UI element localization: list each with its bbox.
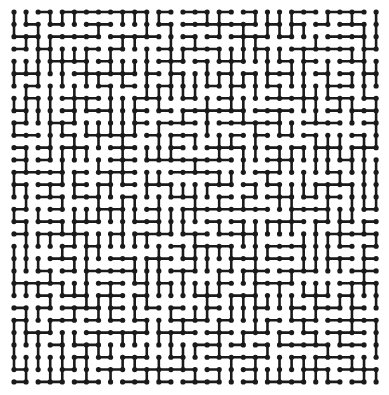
maze-node — [36, 34, 41, 39]
maze-node — [229, 219, 234, 224]
maze-node — [265, 34, 270, 39]
maze-node — [253, 120, 258, 125]
maze-node — [144, 367, 149, 372]
maze-node — [120, 108, 125, 113]
maze-node — [84, 71, 89, 76]
maze-node — [168, 170, 173, 175]
maze-node — [253, 342, 258, 347]
maze-node — [84, 182, 89, 187]
maze-node — [349, 22, 354, 27]
maze-node — [205, 145, 210, 150]
maze-node — [229, 293, 234, 298]
maze-node — [277, 231, 282, 236]
maze-node — [217, 379, 222, 384]
maze-node — [253, 330, 258, 335]
maze-node — [349, 46, 354, 51]
maze-node — [156, 330, 161, 335]
maze-node — [325, 120, 330, 125]
maze-node — [205, 293, 210, 298]
maze-node — [11, 244, 16, 249]
maze-node — [349, 244, 354, 249]
maze-node — [217, 133, 222, 138]
maze-node — [289, 367, 294, 372]
maze-node — [23, 318, 28, 323]
maze-node — [265, 318, 270, 323]
maze-node — [23, 219, 28, 224]
maze-node — [84, 108, 89, 113]
maze-node — [313, 96, 318, 101]
maze-node — [132, 281, 137, 286]
maze-node — [11, 219, 16, 224]
maze-node — [36, 207, 41, 212]
maze-node — [265, 367, 270, 372]
maze-node — [337, 59, 342, 64]
maze-node — [72, 133, 77, 138]
maze-node — [313, 120, 318, 125]
maze-node — [156, 71, 161, 76]
maze-node — [229, 318, 234, 323]
maze-node — [217, 22, 222, 27]
maze-node — [361, 22, 366, 27]
maze-node — [132, 194, 137, 199]
maze-node — [192, 281, 197, 286]
maze-node — [349, 59, 354, 64]
maze-node — [180, 96, 185, 101]
maze-node — [108, 34, 113, 39]
maze-node — [192, 219, 197, 224]
maze-node — [108, 145, 113, 150]
maze-node — [132, 256, 137, 261]
maze-node — [349, 34, 354, 39]
maze-node — [144, 305, 149, 310]
maze-node — [253, 256, 258, 261]
maze-node — [180, 34, 185, 39]
maze-node — [374, 256, 379, 261]
maze-node — [180, 83, 185, 88]
maze-node — [241, 34, 246, 39]
maze-node — [132, 342, 137, 347]
maze-node — [313, 22, 318, 27]
maze-node — [144, 83, 149, 88]
maze-node — [72, 96, 77, 101]
maze-node — [96, 293, 101, 298]
maze-node — [313, 59, 318, 64]
maze-node — [60, 379, 65, 384]
maze-node — [229, 367, 234, 372]
maze-node — [205, 9, 210, 14]
maze-node — [120, 318, 125, 323]
maze-node — [120, 71, 125, 76]
maze-node — [180, 120, 185, 125]
maze-node — [72, 9, 77, 14]
maze-node — [374, 244, 379, 249]
maze-node — [361, 9, 366, 14]
maze-node — [48, 379, 53, 384]
maze-node — [96, 305, 101, 310]
maze-node — [325, 133, 330, 138]
maze-node — [48, 231, 53, 236]
maze-node — [96, 244, 101, 249]
maze-node — [96, 59, 101, 64]
maze-node — [36, 170, 41, 175]
maze-node — [120, 22, 125, 27]
maze-node — [229, 281, 234, 286]
maze-node — [36, 157, 41, 162]
maze-node — [120, 244, 125, 249]
maze-node — [156, 367, 161, 372]
maze-node — [241, 219, 246, 224]
maze-node — [192, 318, 197, 323]
maze-node — [349, 231, 354, 236]
maze-node — [60, 342, 65, 347]
maze-node — [108, 157, 113, 162]
maze-node — [11, 318, 16, 323]
maze-node — [60, 157, 65, 162]
maze-node — [96, 256, 101, 261]
maze-node — [301, 170, 306, 175]
maze-node — [156, 83, 161, 88]
maze-node — [325, 22, 330, 27]
maze-node — [23, 231, 28, 236]
maze-node — [180, 256, 185, 261]
maze-node — [144, 182, 149, 187]
maze-node — [361, 256, 366, 261]
maze-node — [277, 59, 282, 64]
maze-node — [289, 182, 294, 187]
maze-node — [60, 367, 65, 372]
